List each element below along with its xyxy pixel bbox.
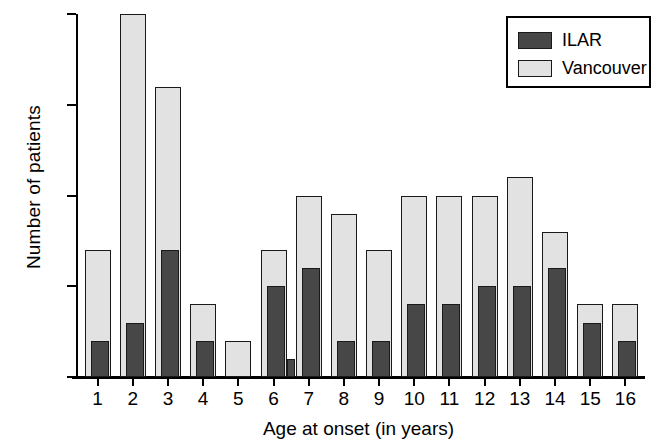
bar-group-age-4 [184,14,219,377]
bar-group-age-12 [465,14,500,377]
x-tick-age-11 [448,379,450,386]
bar-ilar-age-3 [161,250,179,377]
bar-ilar-age-6 [267,286,285,377]
x-tick-label-age-5: 5 [218,388,258,410]
bar-ilar-age-10 [407,304,425,377]
legend-swatch-ilar [518,32,552,49]
bar-group-age-5 [219,14,254,377]
x-tick-age-10 [413,379,415,386]
x-tick-label-age-7: 7 [289,388,329,410]
bar-ilar-age-14 [548,268,566,377]
x-tick-age-5 [237,379,239,386]
bar-vancouver-age-5 [225,341,251,377]
y-tick-15 [67,104,76,106]
legend-item-ilar: ILAR [518,26,649,54]
y-tick-5 [67,285,76,287]
x-tick-label-age-2: 2 [113,388,153,410]
x-tick-label-age-16: 16 [605,388,645,410]
x-tick-age-4 [202,379,204,386]
legend-item-vancouver: Vancouver [518,54,649,82]
x-tick-age-16 [624,379,626,386]
legend-label-ilar: ILAR [562,31,602,49]
x-tick-label-age-13: 13 [500,388,540,410]
bar-ilar-age-7 [302,268,320,377]
x-tick-label-age-12: 12 [465,388,505,410]
x-tick-label-age-10: 10 [394,388,434,410]
bar-group-age-1 [78,14,113,377]
bar-group-age-7 [289,14,324,377]
bar-ilar-age-15 [583,323,601,377]
bar-chart-figure: Number of patients 123456789101112131415… [0,0,661,448]
bar-ilar-age-16 [618,341,636,377]
x-tick-age-6 [273,379,275,386]
bar-ilar-age-8 [337,341,355,377]
x-tick-age-15 [589,379,591,386]
bar-ilar-age-4 [196,341,214,377]
y-tick-20 [67,13,76,15]
bar-ilar-age-12 [478,286,496,377]
x-axis-title: Age at onset (in years) [76,418,641,440]
x-tick-label-age-3: 3 [148,388,188,410]
bar-group-age-11 [430,14,465,377]
x-tick-label-age-14: 14 [535,388,575,410]
bar-group-age-9 [360,14,395,377]
x-tick-age-14 [554,379,556,386]
x-tick-age-12 [484,379,486,386]
legend-label-vancouver: Vancouver [562,59,647,77]
x-tick-label-age-11: 11 [429,388,469,410]
x-tick-label-age-6: 6 [254,388,294,410]
y-tick-10 [67,195,76,197]
bar-ilar-extra-age-7 [287,359,295,377]
bar-ilar-age-13 [513,286,531,377]
y-axis-title: Number of patients [23,57,45,317]
bar-group-age-8 [324,14,359,377]
bar-ilar-age-2 [126,323,144,377]
legend-swatch-vancouver [518,60,552,77]
x-tick-age-8 [343,379,345,386]
bar-group-age-10 [395,14,430,377]
x-tick-age-7 [308,379,310,386]
x-tick-age-3 [167,379,169,386]
bar-ilar-age-9 [372,341,390,377]
bar-group-age-2 [113,14,148,377]
x-tick-age-13 [519,379,521,386]
x-tick-age-2 [132,379,134,386]
x-tick-age-1 [97,379,99,386]
x-tick-label-age-4: 4 [183,388,223,410]
x-tick-age-9 [378,379,380,386]
bar-group-age-6 [254,14,289,377]
x-tick-label-age-1: 1 [78,388,118,410]
x-tick-label-age-15: 15 [570,388,610,410]
bar-ilar-age-11 [442,304,460,377]
x-tick-label-age-8: 8 [324,388,364,410]
y-tick-0 [67,376,76,378]
bar-group-age-3 [148,14,183,377]
legend: ILAR Vancouver [506,16,651,88]
bar-ilar-age-1 [91,341,109,377]
x-tick-label-age-9: 9 [359,388,399,410]
